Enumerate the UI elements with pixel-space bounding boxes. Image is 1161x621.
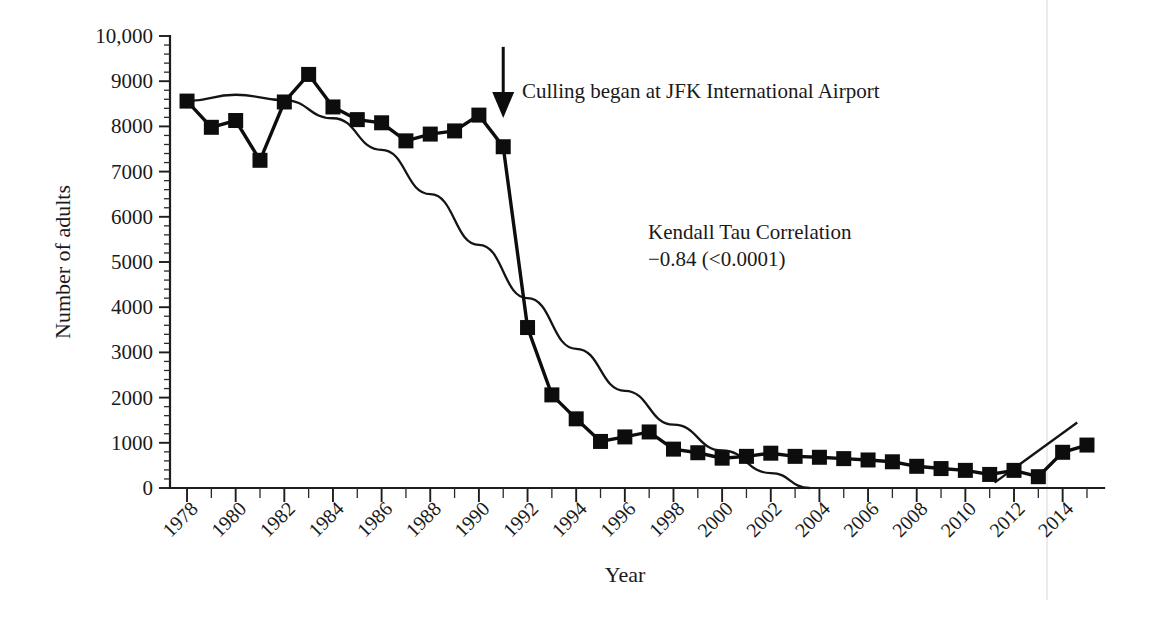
x-axis-tick-labels: 1978198019821984198619881990199219941996… [158,497,1077,541]
y-axis-ticks [159,36,170,488]
data-point-marker [471,108,486,123]
x-axis-title: Year [605,562,646,587]
data-point-marker [861,452,876,467]
y-tick-label: 5000 [111,250,153,274]
x-tick-label: 1998 [644,497,688,541]
data-point-marker [252,153,267,168]
data-point-marker [228,113,243,128]
data-point-marker [569,411,584,426]
data-point-marker [812,450,827,465]
data-point-marker [496,139,511,154]
data-point-marker [301,67,316,82]
x-tick-label: 1994 [547,497,591,541]
x-tick-label: 2012 [985,497,1029,541]
data-point-marker [1055,445,1070,460]
y-tick-label: 1000 [111,431,153,455]
x-tick-label: 2014 [1034,497,1078,541]
correlation-title-label: Kendall Tau Correlation [648,220,852,244]
data-markers-group [180,67,1095,484]
culling-annotation-label: Culling began at JFK International Airpo… [522,79,880,103]
y-axis-title: Number of adults [50,185,75,339]
data-point-marker [350,112,365,127]
data-series-group [187,74,1087,476]
data-point-marker [909,459,924,474]
data-point-marker [715,451,730,466]
data-point-marker [666,442,681,457]
x-tick-label: 1988 [401,497,445,541]
y-tick-label: 9000 [111,69,153,93]
series-polyline [187,74,1087,476]
y-axis-tick-labels: 010002000300040005000600070008000900010,… [95,24,153,500]
x-tick-label: 1978 [158,497,202,541]
trend-lines-group [187,95,1077,488]
data-point-marker [982,467,997,482]
data-point-marker [520,320,535,335]
data-point-marker [423,127,438,142]
x-tick-label: 1986 [353,497,397,541]
x-tick-label: 1984 [304,497,348,541]
x-tick-label: 1996 [596,497,640,541]
data-point-marker [1079,438,1094,453]
data-point-marker [447,123,462,138]
data-point-marker [204,120,219,135]
data-point-marker [180,94,195,109]
x-tick-label: 2010 [936,497,980,541]
x-tick-label: 2004 [790,497,834,541]
data-point-marker [690,445,705,460]
data-point-marker [277,94,292,109]
data-point-marker [1007,463,1022,478]
y-tick-label: 3000 [111,340,153,364]
x-tick-label: 2000 [693,497,737,541]
data-point-marker [788,449,803,464]
data-point-marker [934,461,949,476]
y-tick-label: 0 [143,476,154,500]
data-point-marker [739,449,754,464]
chart-figure: 010002000300040005000600070008000900010,… [0,0,1161,621]
data-point-marker [544,387,559,402]
data-point-marker [398,133,413,148]
chart-svg: 010002000300040005000600070008000900010,… [0,0,1161,621]
y-tick-label: 7000 [111,160,153,184]
culling-arrow-icon [492,47,514,118]
x-tick-label: 2008 [888,497,932,541]
data-point-marker [836,451,851,466]
correlation-value-label: −0.84 (<0.0001) [648,247,785,271]
y-tick-label: 6000 [111,205,153,229]
x-tick-label: 2002 [742,497,786,541]
x-tick-label: 1990 [450,497,494,541]
data-point-marker [642,424,657,439]
x-tick-label: 1980 [207,497,251,541]
y-tick-label: 10,000 [95,24,153,48]
data-point-marker [885,454,900,469]
y-tick-label: 8000 [111,114,153,138]
data-point-marker [1031,469,1046,484]
data-point-marker [374,115,389,130]
data-point-marker [763,446,778,461]
data-point-marker [325,99,340,114]
x-tick-label: 1982 [255,497,299,541]
axes-group [170,36,1104,488]
data-point-marker [593,434,608,449]
x-axis-ticks [187,488,1087,502]
data-point-marker [617,429,632,444]
data-point-marker [958,463,973,478]
x-tick-label: 1992 [499,497,543,541]
x-tick-label: 2006 [839,497,883,541]
y-tick-label: 2000 [111,386,153,410]
y-tick-label: 4000 [111,295,153,319]
